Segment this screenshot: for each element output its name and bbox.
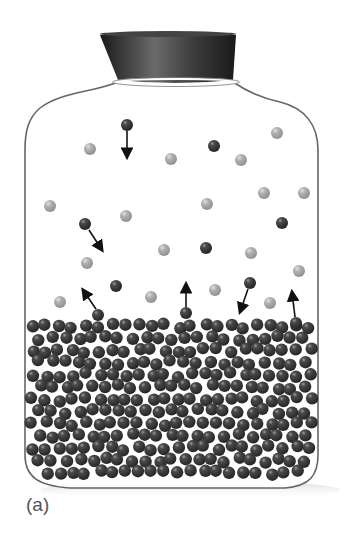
liquid-molecule (186, 367, 198, 379)
liquid-molecule (51, 344, 63, 356)
liquid-molecule (165, 334, 177, 346)
liquid-molecule (273, 357, 285, 369)
liquid-molecule (95, 369, 107, 381)
liquid-molecule (236, 440, 248, 452)
liquid-molecule (84, 331, 96, 343)
liquid-molecule (133, 318, 145, 330)
vapor-molecule-light (120, 210, 132, 222)
liquid-molecule (75, 453, 87, 465)
liquid-molecule (125, 405, 137, 417)
liquid-molecule (201, 318, 213, 330)
liquid-molecule (157, 465, 169, 477)
liquid-molecule (99, 358, 111, 370)
vapor-molecule-light (258, 187, 270, 199)
liquid-molecule (183, 320, 195, 332)
liquid-molecule (176, 405, 188, 417)
vapor-molecule-dark (200, 242, 212, 254)
liquid-molecule (80, 319, 92, 331)
liquid-molecule (124, 382, 136, 394)
vapor-molecule-light (81, 257, 93, 269)
liquid-molecule (206, 330, 218, 342)
liquid-molecule (139, 381, 151, 393)
vapor-molecule-light (201, 198, 213, 210)
liquid-molecule (306, 392, 318, 404)
liquid-molecule (138, 356, 150, 368)
liquid-molecule (283, 331, 295, 343)
liquid-molecule (42, 468, 54, 480)
liquid-molecule (143, 343, 155, 355)
liquid-molecule (192, 403, 204, 415)
liquid-molecule (197, 342, 209, 354)
liquid-molecule (277, 466, 289, 478)
liquid-molecule (146, 320, 158, 332)
liquid-molecule (232, 356, 244, 368)
liquid-molecule (38, 319, 50, 331)
liquid-molecule (55, 467, 67, 479)
liquid-molecule (44, 454, 56, 466)
liquid-molecule (111, 429, 123, 441)
liquid-molecule (31, 454, 43, 466)
liquid-molecule (32, 354, 44, 366)
stopper-top-rim (100, 31, 236, 37)
liquid-molecule (247, 431, 259, 443)
liquid-molecule (237, 466, 249, 478)
liquid-molecule (110, 332, 122, 344)
vapor-molecule-light (245, 247, 257, 259)
vapor-molecule-light (44, 200, 56, 212)
liquid-molecule (153, 406, 165, 418)
liquid-molecule (277, 419, 289, 431)
liquid-molecule (273, 408, 285, 420)
liquid-molecule (180, 453, 192, 465)
liquid-molecule (190, 382, 202, 394)
vapor-molecule-dark (208, 140, 220, 152)
liquid-molecule (106, 466, 118, 478)
liquid-molecule (127, 427, 139, 439)
vapor-molecule-light (145, 291, 157, 303)
stopper (100, 32, 236, 84)
liquid-molecule (61, 455, 73, 467)
liquid-molecule (127, 357, 139, 369)
vapor-molecule-light (84, 143, 96, 155)
liquid-molecule (216, 404, 228, 416)
liquid-molecule (236, 391, 248, 403)
liquid-molecule (163, 354, 175, 366)
liquid-molecule (78, 442, 90, 454)
liquid-molecule (41, 415, 53, 427)
liquid-molecule (38, 443, 50, 455)
liquid-molecule (284, 359, 296, 371)
liquid-molecule (197, 439, 209, 451)
liquid-molecule (231, 380, 243, 392)
liquid-molecule (157, 318, 169, 330)
liquid-molecule (65, 392, 77, 404)
liquid-molecule (263, 344, 275, 356)
liquid-molecule (32, 334, 44, 346)
liquid-molecule (59, 354, 71, 366)
vapor-molecule-light (158, 244, 170, 256)
liquid-molecule (165, 403, 177, 415)
liquid-molecule (271, 330, 283, 342)
liquid-molecule (47, 331, 59, 343)
liquid-molecule (141, 331, 153, 343)
vapor-molecule-dark (180, 307, 192, 319)
liquid-molecule (224, 366, 236, 378)
liquid-molecule (291, 440, 303, 452)
liquid-molecule (132, 368, 144, 380)
liquid-molecule (173, 441, 185, 453)
vapor-molecule-dark (276, 217, 288, 229)
liquid-molecule (118, 393, 130, 405)
liquid-molecule (117, 346, 129, 358)
liquid-molecule (223, 467, 235, 479)
liquid-molecule (236, 322, 248, 334)
liquid-molecule (54, 395, 66, 407)
liquid-molecule (177, 355, 189, 367)
liquid-molecule (246, 381, 258, 393)
liquid-molecule (44, 405, 56, 417)
liquid-molecule (276, 370, 288, 382)
liquid-molecule (119, 464, 131, 476)
liquid-molecule (231, 406, 243, 418)
liquid-molecule (270, 429, 282, 441)
liquid-molecule (139, 429, 151, 441)
liquid-molecule (106, 441, 118, 453)
liquid-molecule (306, 342, 318, 354)
vapor-molecule-light (54, 296, 66, 308)
